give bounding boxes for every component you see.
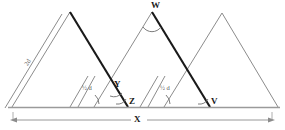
dimension-arrow-left-icon [10, 118, 17, 123]
triangle-middle-side-left [94, 12, 152, 107]
dimension-arrow-right-icon [268, 118, 275, 123]
label-half-d-left: ½ d [82, 85, 92, 92]
label-half-d-right: ½ d [160, 85, 170, 92]
label-apex-w: W [151, 1, 160, 10]
geometry-figure: W Y Z V X 2d ½ d ½ d [0, 0, 285, 130]
label-point-z: Z [129, 97, 135, 106]
arc-apex-w [143, 27, 161, 32]
geometry-drawing [0, 0, 285, 130]
parallel-line-inner-left [70, 76, 88, 107]
triangle-right-side-left [164, 13, 222, 107]
parallel-line-inner-right-2 [148, 76, 165, 107]
bold-edge-middle-triangle [152, 12, 210, 107]
label-point-y: Y [114, 80, 121, 89]
triangle-left-side-left [12, 12, 70, 107]
label-span-x: X [134, 115, 141, 124]
parallel-line-inner-right [140, 76, 158, 107]
parallel-line-far-left [5, 14, 62, 108]
label-point-v: V [211, 97, 218, 106]
triangle-middle [94, 12, 210, 107]
parallel-line-inner-left-2 [78, 76, 95, 107]
triangle-right-side-right [222, 13, 278, 107]
